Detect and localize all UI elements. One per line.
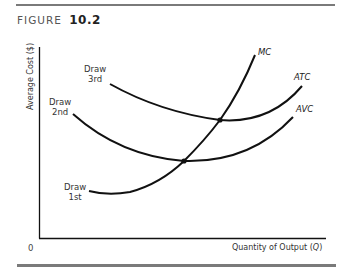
y-axis-label: Average Cost ($) xyxy=(26,35,35,119)
atc-curve xyxy=(110,84,302,120)
origin-label: 0 xyxy=(28,243,33,253)
mc-label: MC xyxy=(258,47,271,57)
draw-2nd-label: Draw 2nd xyxy=(49,97,71,117)
mc-curve xyxy=(89,55,255,194)
avc-label: AVC xyxy=(296,104,313,114)
atc-mc-intersection-point xyxy=(217,117,222,122)
draw-1st-label: Draw 1st xyxy=(64,182,86,202)
bottom-rule xyxy=(17,264,336,267)
avc-curve xyxy=(73,114,293,161)
cost-curves-diagram xyxy=(0,0,347,279)
draw-3rd-label: Draw 3rd xyxy=(84,64,106,84)
avc-mc-intersection-point xyxy=(181,158,186,163)
x-axis-label: Quantity of Output (Q) xyxy=(232,243,322,252)
atc-label: ATC xyxy=(294,72,310,82)
